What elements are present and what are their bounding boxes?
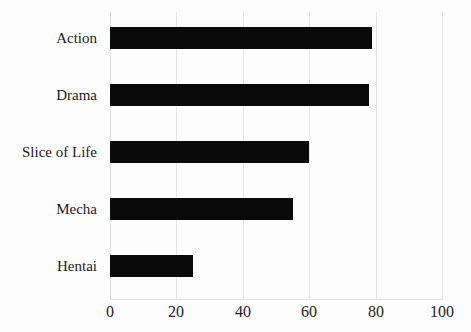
bar-drama[interactable] — [110, 84, 369, 106]
x-axis-tick-0: 0 — [106, 303, 114, 321]
x-axis-tick-80: 80 — [368, 303, 384, 321]
gridline-100 — [442, 12, 443, 300]
bar-row — [110, 16, 442, 60]
bar-row — [110, 244, 442, 288]
bar-slice-of-life[interactable] — [110, 141, 309, 163]
x-axis-labels: 0 20 40 60 80 100 — [110, 303, 442, 329]
y-axis-labels: Action Drama Slice of Life Mecha Hentai — [0, 12, 104, 300]
bar-hentai[interactable] — [110, 255, 193, 277]
bar-chart: Action Drama Slice of Life Mecha Hentai … — [0, 0, 471, 332]
y-axis-label-slice-of-life: Slice of Life — [0, 130, 104, 174]
y-axis-label-hentai: Hentai — [0, 244, 104, 288]
y-axis-label-mecha: Mecha — [0, 187, 104, 231]
bar-row — [110, 73, 442, 117]
x-axis-line — [110, 299, 443, 300]
bar-mecha[interactable] — [110, 198, 293, 220]
plot-area — [110, 12, 442, 300]
x-axis-tick-20: 20 — [168, 303, 184, 321]
y-axis-label-drama: Drama — [0, 73, 104, 117]
x-axis-tick-60: 60 — [301, 303, 317, 321]
x-axis-tick-100: 100 — [430, 303, 454, 321]
bar-row — [110, 187, 442, 231]
bar-row — [110, 130, 442, 174]
bar-action[interactable] — [110, 27, 372, 49]
x-axis-tick-40: 40 — [235, 303, 251, 321]
y-axis-label-action: Action — [0, 16, 104, 60]
